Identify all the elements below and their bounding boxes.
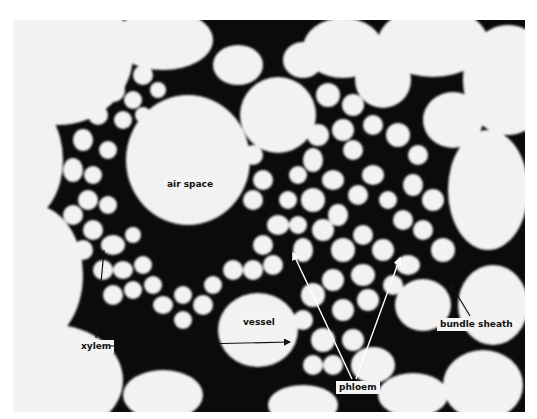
cell-48 xyxy=(204,276,222,294)
cell-55 xyxy=(153,51,173,69)
cell-36 xyxy=(125,227,141,243)
cell-33 xyxy=(63,205,83,225)
micrograph-image xyxy=(13,20,525,412)
cell-62 xyxy=(343,140,363,160)
cell-10 xyxy=(458,265,525,345)
cell-26 xyxy=(63,158,83,182)
cell-30 xyxy=(124,91,142,109)
cell-56 xyxy=(303,148,323,172)
cell-90 xyxy=(307,124,329,146)
cell-25 xyxy=(73,129,93,151)
cell-74 xyxy=(396,255,420,275)
cell-23 xyxy=(101,78,125,102)
cell-92 xyxy=(279,191,297,209)
cell-86 xyxy=(386,123,410,147)
cell-32 xyxy=(99,196,117,214)
cell-89 xyxy=(332,119,354,141)
cell-99 xyxy=(316,83,340,107)
cell-100 xyxy=(342,94,364,116)
cell-44 xyxy=(153,296,173,314)
label-xylem: xylem xyxy=(78,340,114,353)
cell-91 xyxy=(289,166,307,184)
cell-19 xyxy=(355,52,411,108)
cell-51 xyxy=(263,255,283,275)
cell-29 xyxy=(114,111,132,129)
cell-72 xyxy=(413,220,433,240)
cell-70 xyxy=(403,174,423,196)
cell-77 xyxy=(301,283,325,307)
cell-46 xyxy=(193,295,213,315)
cell-75 xyxy=(351,264,375,286)
cell-64 xyxy=(293,238,313,262)
cell-50 xyxy=(243,260,263,280)
cell-58 xyxy=(301,188,325,212)
cell-42 xyxy=(124,281,142,299)
cell-27 xyxy=(84,166,102,184)
cell-34 xyxy=(83,220,103,240)
cell-88 xyxy=(363,115,383,135)
cell-37 xyxy=(73,240,93,260)
cell-43 xyxy=(103,285,123,305)
cell-9 xyxy=(448,130,525,250)
cell-85 xyxy=(323,355,343,375)
cell-87 xyxy=(408,145,428,165)
cell-20 xyxy=(423,92,483,148)
cell-17 xyxy=(213,45,263,85)
cell-78 xyxy=(332,299,354,321)
label-bundle-sheath: bundle sheath xyxy=(437,318,516,331)
cell-57 xyxy=(322,170,344,190)
cell-73 xyxy=(431,238,455,262)
cell-67 xyxy=(372,239,394,261)
cell-45 xyxy=(174,286,192,304)
cell-84 xyxy=(303,355,323,375)
cell-66 xyxy=(353,225,373,245)
cell-79 xyxy=(357,289,379,311)
cell-93 xyxy=(267,215,289,235)
cell-22 xyxy=(351,347,395,383)
cell-38 xyxy=(93,260,113,280)
cell-41 xyxy=(144,276,162,294)
cell-63 xyxy=(312,219,334,241)
cell-24 xyxy=(88,105,108,125)
cell-82 xyxy=(311,328,335,352)
cell-52 xyxy=(133,65,153,85)
cell-47 xyxy=(174,311,192,329)
cell-54 xyxy=(135,107,151,123)
cell-61 xyxy=(362,165,384,185)
cell-95 xyxy=(253,235,273,255)
cell-31 xyxy=(78,190,98,210)
cell-35 xyxy=(101,235,125,255)
cell-97 xyxy=(253,170,273,190)
cell-15 xyxy=(218,293,298,367)
cell-96 xyxy=(243,190,263,210)
cell-18 xyxy=(283,42,323,78)
cell-53 xyxy=(150,82,166,98)
cell-49 xyxy=(223,260,243,280)
cell-65 xyxy=(331,238,355,262)
label-air-space: air space xyxy=(164,178,216,191)
cell-39 xyxy=(113,261,133,279)
cell-81 xyxy=(293,310,313,330)
cell-28 xyxy=(99,141,117,159)
cell-68 xyxy=(393,210,413,230)
cell-98 xyxy=(243,145,263,165)
label-vessel: vessel xyxy=(240,316,278,329)
cell-94 xyxy=(289,216,307,234)
cell-71 xyxy=(422,189,444,211)
cell-80 xyxy=(383,275,403,295)
cell-tissue xyxy=(13,20,525,412)
cell-76 xyxy=(322,269,344,291)
label-phloem: phloem xyxy=(336,381,380,394)
cell-69 xyxy=(379,191,397,209)
cell-40 xyxy=(134,256,152,274)
cell-16 xyxy=(240,77,316,153)
cell-60 xyxy=(348,185,368,205)
cell-83 xyxy=(342,329,364,351)
